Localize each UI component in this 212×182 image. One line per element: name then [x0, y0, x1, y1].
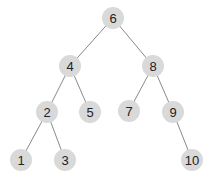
- tree-node-3: 3: [54, 149, 76, 171]
- tree-node-8: 8: [142, 55, 164, 77]
- node-label: 4: [66, 59, 73, 74]
- node-label: 10: [185, 153, 199, 168]
- node-label: 9: [169, 105, 176, 120]
- tree-node-6: 6: [102, 7, 124, 29]
- node-label: 5: [86, 105, 93, 120]
- node-label: 7: [125, 104, 132, 119]
- tree-node-10: 10: [181, 149, 203, 171]
- tree-node-5: 5: [79, 101, 101, 123]
- tree-node-9: 9: [162, 101, 184, 123]
- node-label: 1: [17, 153, 24, 168]
- tree-node-2: 2: [36, 101, 58, 123]
- node-label: 2: [43, 105, 50, 120]
- tree-node-1: 1: [10, 149, 32, 171]
- tree-node-4: 4: [59, 55, 81, 77]
- tree-nodes: 64825791310: [10, 7, 203, 171]
- tree-node-7: 7: [118, 100, 140, 122]
- binary-tree-diagram: 64825791310: [0, 0, 212, 182]
- tree-edges: [21, 18, 192, 160]
- node-label: 8: [149, 59, 156, 74]
- node-label: 3: [61, 153, 68, 168]
- node-label: 6: [109, 11, 116, 26]
